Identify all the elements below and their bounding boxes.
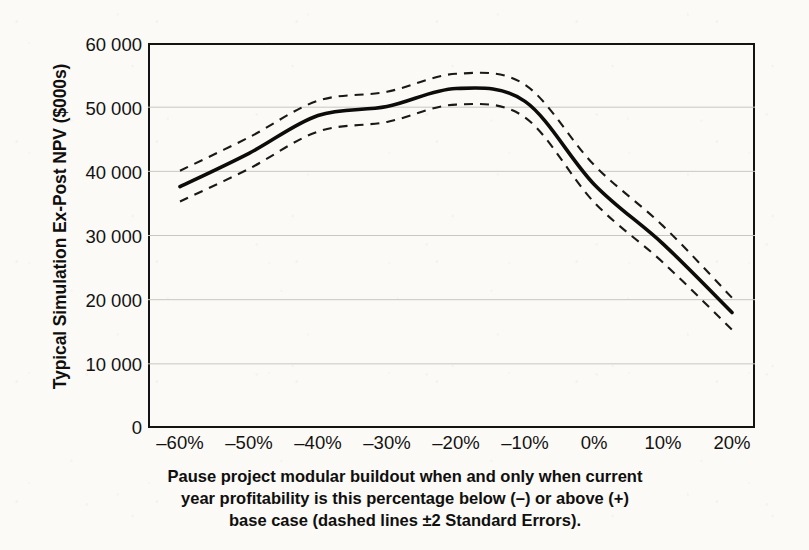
figure-caption: Pause project modular buildout when and … bbox=[105, 465, 705, 531]
caption-line-2: year profitability is this percentage be… bbox=[105, 487, 705, 509]
x-tick-20: 20% bbox=[687, 432, 777, 454]
caption-line-1: Pause project modular buildout when and … bbox=[105, 465, 705, 487]
caption-line-3: base case (dashed lines ±2 Standard Erro… bbox=[105, 509, 705, 531]
chart-figure: Typical Simulation Ex-Post NPV ($000s) 6… bbox=[0, 0, 809, 550]
